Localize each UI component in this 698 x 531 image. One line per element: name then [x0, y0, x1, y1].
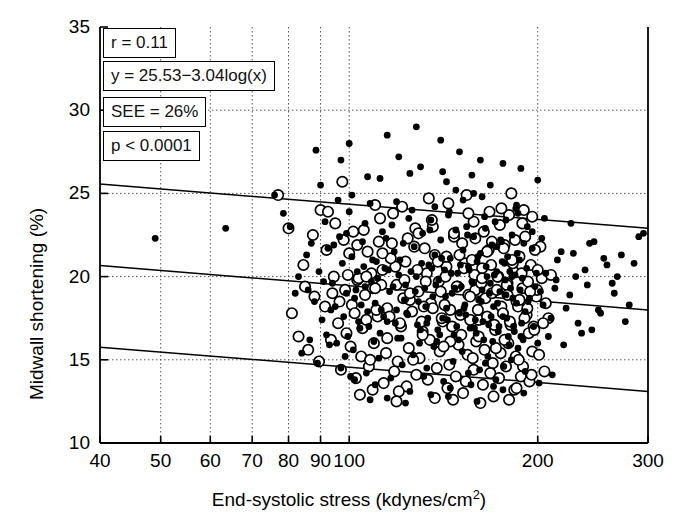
- y-axis-title: Midwall shortening (%): [26, 208, 48, 400]
- x-axis-title-superscript: 2: [473, 487, 480, 502]
- y-tick-label: 30: [40, 99, 90, 121]
- annotation-p-value: p < 0.0001: [103, 131, 200, 161]
- annotation-r-value: r = 0.11: [103, 28, 176, 58]
- x-axis-title: End-systolic stress (kdynes/cm2): [0, 487, 698, 511]
- y-tick-label: 10: [40, 432, 90, 454]
- x-axis-title-tail: ): [480, 489, 486, 510]
- annotation-equation: y = 25.53−3.04log(x): [103, 61, 275, 91]
- scatter-plot-figure: 405060708090100200300 101520253035 End-s…: [0, 0, 698, 531]
- y-tick-label: 25: [40, 182, 90, 204]
- x-tick-label: 300: [618, 450, 678, 472]
- y-tick-label: 35: [40, 16, 90, 38]
- x-tick-label: 200: [508, 450, 568, 472]
- annotation-see: SEE = 26%: [103, 97, 206, 127]
- x-tick-label: 100: [319, 450, 379, 472]
- x-axis-title-base: End-systolic stress (kdynes/cm: [212, 489, 473, 510]
